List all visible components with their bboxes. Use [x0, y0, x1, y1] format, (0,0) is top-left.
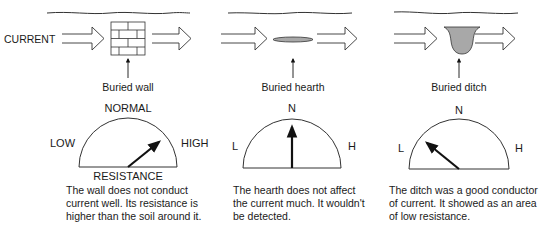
resistance-gauge: NORMAL LOW HIGH RESISTANCE — [50, 102, 209, 182]
panel-wall: CURRENT Buried wall NORMAL LOW HIGH RESI… — [4, 12, 209, 222]
description-line: higher than the soil around it. — [66, 210, 201, 222]
gauge-right-label: HIGH — [181, 137, 209, 149]
ground-surface-line — [228, 12, 352, 13]
gauge-left-label: L — [398, 142, 404, 154]
ground-surface-line — [394, 12, 518, 14]
current-arrow-out — [317, 27, 357, 50]
buried-ditch-icon — [444, 27, 480, 54]
current-arrow-out — [475, 27, 515, 50]
resistance-gauge: N L H — [398, 104, 523, 169]
current-arrow-in — [221, 27, 267, 50]
gauge-dial — [79, 118, 177, 167]
panel-hearth: Buried hearth N L H The hearth does not … — [221, 12, 365, 222]
object-label: Buried wall — [102, 81, 153, 93]
gauge-left-label: LOW — [50, 137, 76, 149]
current-label: CURRENT — [4, 33, 56, 45]
resistivity-diagram: CURRENT Buried wall NORMAL LOW HIGH RESI… — [0, 0, 548, 236]
gauge-top-label: NORMAL — [104, 102, 151, 114]
gauge-top-label: N — [455, 104, 463, 116]
gauge-right-label: H — [348, 140, 356, 152]
gauge-needle — [128, 142, 159, 167]
resistance-gauge: N L H — [232, 102, 356, 168]
ground-surface-line — [47, 12, 190, 13]
current-arrow-in — [62, 27, 104, 50]
gauge-left-label: L — [232, 140, 238, 152]
current-arrow-out — [152, 27, 191, 50]
description: The hearth does not affect the current m… — [233, 184, 365, 222]
description: The ditch was a good conductor of curren… — [389, 184, 538, 222]
buried-wall-icon — [111, 22, 145, 55]
gauge-top-label: N — [288, 102, 296, 114]
description-line: The wall does not conduct — [66, 184, 188, 196]
object-label: Buried hearth — [261, 81, 324, 93]
description-line: the current much. It wouldn't — [233, 197, 365, 209]
description-line: of low resistance. — [389, 210, 470, 222]
gauge-dial — [409, 119, 509, 169]
description-line: be detected. — [233, 210, 291, 222]
panel-ditch: Buried ditch N L H The ditch was a good … — [389, 12, 538, 222]
description: The wall does not conduct current well. … — [66, 184, 201, 222]
description-line: current well. Its resistance is — [66, 197, 198, 209]
description-line: The hearth does not affect — [233, 184, 355, 196]
gauge-right-label: H — [515, 142, 523, 154]
object-label: Buried ditch — [431, 81, 487, 93]
gauge-needle — [427, 143, 459, 169]
buried-hearth-icon — [273, 37, 313, 42]
description-line: of current. It showed as an area — [389, 197, 537, 209]
description-line: The ditch was a good conductor — [389, 184, 538, 196]
gauge-bottom-label: RESISTANCE — [93, 170, 162, 182]
current-arrow-in — [394, 27, 437, 50]
